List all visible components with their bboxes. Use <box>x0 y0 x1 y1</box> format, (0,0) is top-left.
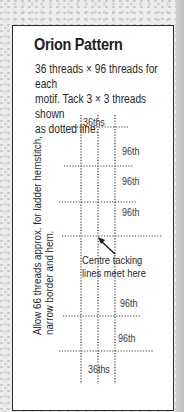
centre-note: Centre tacking lines meet here <box>82 254 146 280</box>
arrow-icon <box>98 237 115 254</box>
tacking-diagram <box>0 0 184 412</box>
centre-note-line: lines meet here <box>82 267 146 280</box>
row-label-96th: 96th <box>122 206 139 218</box>
row-label-96th: 96th <box>122 145 139 157</box>
row-label-96th: 96th <box>118 332 135 344</box>
side-note-line: narrow border and hem. <box>43 165 55 335</box>
top-36ths-label: 36ths <box>83 116 105 128</box>
row-label-96th: 96th <box>122 175 139 187</box>
row-label-96th: 96th <box>120 297 137 309</box>
side-note: Allow 66 threads approx. for ladder hems… <box>31 165 55 335</box>
side-note-line: Allow 66 threads approx. for ladder hems… <box>31 165 43 335</box>
bottom-36ths-label: 36ths <box>88 363 110 375</box>
centre-note-line: Centre tacking <box>82 254 146 267</box>
